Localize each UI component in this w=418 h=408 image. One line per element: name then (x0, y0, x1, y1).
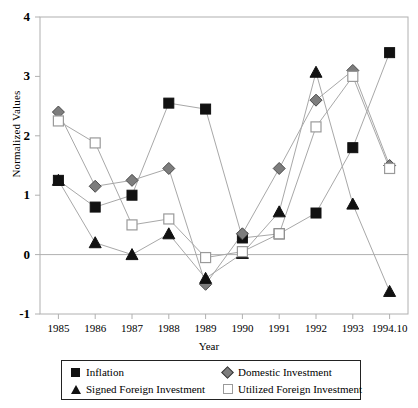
legend-item: Signed Foreign Investment (70, 383, 205, 395)
legend-label: Utilized Foreign Investment (238, 383, 362, 395)
legend-label: Signed Foreign Investment (86, 383, 205, 395)
legend-marker-filled-triangle-icon (71, 385, 81, 394)
legend-marker-slot (222, 368, 233, 377)
legend-item: Utilized Foreign Investment (222, 383, 362, 395)
y-tick-label: 2 (4, 129, 30, 142)
legend-marker-open-square-icon (223, 384, 233, 394)
y-tick-label: 4 (4, 10, 30, 23)
legend-marker-slot (70, 385, 81, 394)
legend-item: Domestic Investment (222, 366, 332, 378)
x-tick-label: 1994.10 (362, 323, 418, 334)
y-tick-label: -1 (4, 307, 30, 320)
chart-container: Normalized Values Year -101234 198519861… (0, 0, 418, 408)
chart-legend: InflationDomestic InvestmentSigned Forei… (61, 360, 361, 400)
legend-label: Domestic Investment (238, 366, 332, 378)
legend-marker-filled-diamond-icon (221, 366, 234, 379)
legend-marker-slot (70, 368, 81, 377)
y-tick-label: 3 (4, 69, 30, 82)
x-axis-title: Year (0, 340, 418, 352)
legend-item: Inflation (70, 366, 124, 378)
legend-marker-filled-square-icon (71, 368, 80, 377)
legend-label: Inflation (86, 366, 124, 378)
y-tick-label: 1 (4, 188, 30, 201)
legend-marker-slot (222, 384, 233, 394)
y-tick-label: 0 (4, 248, 30, 261)
